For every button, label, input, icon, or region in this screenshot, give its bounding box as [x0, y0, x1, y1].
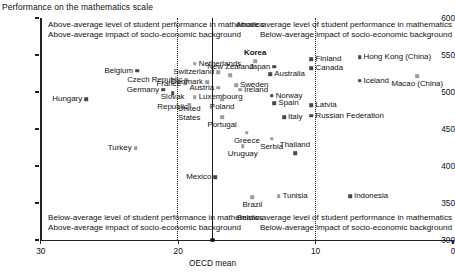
data-point-label: Hungary — [52, 95, 82, 104]
y-tick-mark — [35, 165, 39, 166]
data-point-label: Finland — [315, 55, 341, 64]
chart-title: Performance on the mathematics scale — [2, 2, 153, 12]
data-point-label: Uruguay — [228, 149, 258, 158]
data-point-marker — [310, 104, 314, 108]
data-point-marker — [268, 72, 272, 76]
data-point-marker — [220, 98, 224, 102]
data-point-label: Iceland — [364, 76, 389, 85]
y-tick-label: 350 — [421, 198, 455, 208]
y-tick-mark — [35, 239, 39, 240]
x-tick-mark — [40, 240, 41, 244]
quadrant-bottom-right: Below-average level of student performan… — [237, 213, 452, 234]
x-tick-mark — [178, 240, 179, 244]
quadrant-top-left-line1: Above-average level of student performan… — [48, 20, 264, 30]
data-point-label: Germany — [127, 85, 159, 94]
data-point-marker — [216, 86, 220, 90]
data-point-label: Belgium — [104, 66, 133, 75]
data-point-marker — [282, 115, 286, 119]
x-tick-label: 10 — [311, 246, 320, 256]
data-point-marker — [161, 88, 165, 92]
data-point-marker — [229, 73, 233, 77]
x-axis-line — [40, 240, 453, 241]
data-point-marker — [238, 88, 242, 92]
scatter-chart: Performance on the mathematics scale 600… — [0, 0, 455, 276]
data-point-marker — [241, 144, 245, 148]
quadrant-bottom-left-line1: Below-average level of student performan… — [48, 213, 263, 223]
quadrant-bottom-left-line2: Above-average impact of socio-economic b… — [48, 223, 263, 233]
data-point-label: Portugal — [207, 121, 236, 130]
data-point-label: Spain — [278, 98, 298, 107]
data-point-label: Greece — [234, 136, 260, 145]
data-point-label: Turkey — [108, 144, 132, 153]
data-point-label: Hong Kong (China) — [364, 53, 432, 62]
quadrant-bottom-right-line1: Below-average level of student performan… — [237, 213, 452, 223]
x-tick-label: 20 — [174, 246, 183, 256]
y-tick-label: 400 — [421, 161, 455, 171]
data-point-marker — [358, 55, 362, 59]
quadrant-top-right: Above-average level of student performan… — [236, 20, 452, 41]
x-tick-label: 30 — [36, 246, 45, 256]
data-point-marker — [310, 58, 314, 62]
quadrant-top-left: Above-average level of student performan… — [48, 20, 264, 41]
x-tick-label: 0 — [451, 246, 455, 256]
x-tick-mark — [452, 240, 453, 244]
y-tick-mark — [35, 202, 39, 203]
data-point-label: Indonesia — [354, 192, 388, 201]
data-point-marker — [193, 95, 197, 99]
data-point-label: Mexico — [186, 172, 211, 181]
data-point-marker — [310, 67, 314, 71]
data-point-marker — [214, 175, 218, 179]
quadrant-top-right-line2: Below-average impact of socio-economic b… — [236, 30, 452, 40]
data-point-label: Thailand — [280, 141, 310, 150]
data-point-label: Poland — [210, 103, 235, 112]
x-tick-mark — [315, 240, 316, 244]
data-point-label: Russian Federation — [315, 111, 383, 120]
data-point-marker — [134, 146, 138, 150]
y-tick-label: 300 — [421, 235, 455, 245]
data-point-marker — [310, 114, 314, 118]
y-tick-mark — [35, 17, 39, 18]
reference-line-dotted-right — [315, 18, 316, 240]
data-point-marker — [273, 101, 277, 105]
y-axis-line — [40, 18, 42, 240]
data-point-label: Australia — [274, 70, 305, 79]
data-point-marker — [270, 94, 274, 98]
data-point-label: Canada — [315, 64, 343, 73]
y-tick-mark — [35, 54, 39, 55]
data-point-label: Tunisia — [283, 192, 308, 201]
data-point-label: Brazil — [243, 200, 263, 209]
y-tick-label: 450 — [421, 124, 455, 134]
y-tick-mark — [35, 128, 39, 129]
quadrant-bottom-left: Below-average level of student performan… — [48, 213, 263, 234]
data-point-label: Austria — [189, 83, 214, 92]
data-point-marker — [277, 195, 281, 199]
data-point-label: Latvia — [315, 101, 336, 110]
data-point-marker — [251, 195, 255, 199]
quadrant-bottom-right-line2: Below-average impact of socio-economic b… — [237, 223, 452, 233]
reference-line-dotted-left — [177, 18, 178, 240]
data-point-label: Japan — [249, 62, 271, 71]
quadrant-top-right-line1: Above-average level of student performan… — [236, 20, 452, 30]
data-point-label: Korea — [244, 48, 266, 57]
data-point-marker — [293, 152, 297, 156]
y-tick-mark — [35, 91, 39, 92]
data-point-marker — [415, 75, 419, 79]
data-point-marker — [273, 65, 277, 69]
data-point-label: Ireland — [244, 85, 268, 94]
quadrant-top-left-line2: Above-average impact of socio-economic b… — [48, 30, 264, 40]
data-point-marker — [234, 84, 238, 88]
data-point-marker — [193, 62, 197, 66]
data-point-marker — [84, 98, 88, 102]
data-point-label: UnitedStates — [178, 103, 201, 121]
oecd-mean-marker — [210, 238, 214, 242]
data-point-marker — [358, 79, 362, 83]
data-point-marker — [348, 195, 352, 199]
data-point-marker — [245, 131, 249, 135]
data-point-label: New Zealand — [207, 62, 254, 71]
data-point-label: Italy — [288, 113, 302, 122]
oecd-mean-label: OECD mean — [189, 258, 236, 268]
data-point-marker — [220, 115, 224, 119]
data-point-marker — [135, 69, 139, 73]
data-point-label: Macao (China) — [391, 80, 443, 89]
data-point-marker — [270, 137, 274, 141]
